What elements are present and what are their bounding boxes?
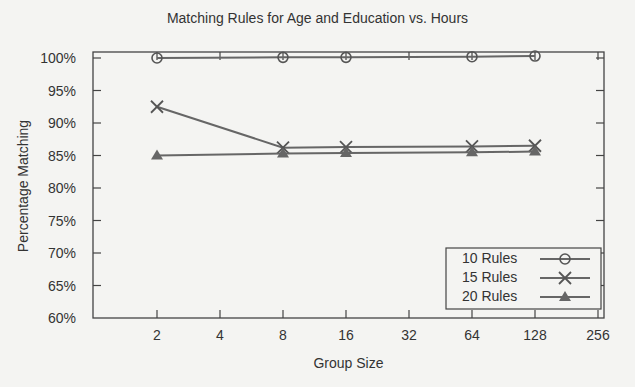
series-lines	[151, 51, 541, 159]
series-15-rules	[151, 101, 541, 154]
legend-label-15-rules: 15 Rules	[462, 269, 517, 285]
series-20-rules	[151, 146, 541, 160]
legend-label-10-rules: 10 Rules	[462, 250, 517, 266]
plot-area	[0, 0, 635, 387]
legend-label-20-rules: 20 Rules	[462, 288, 517, 304]
series-10-rules	[152, 51, 540, 63]
